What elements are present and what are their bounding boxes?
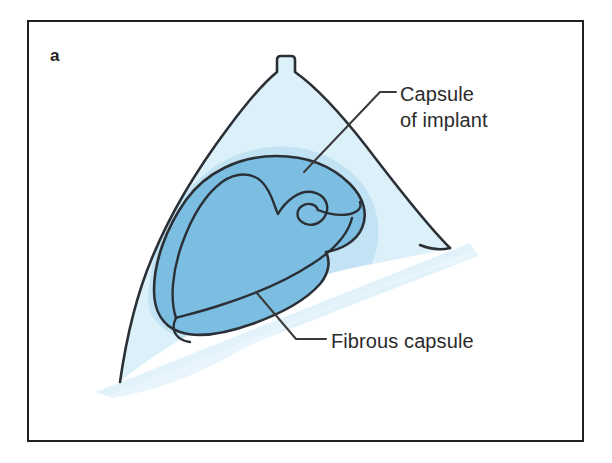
callout-label-capsule-of-implant: Capsule of implant xyxy=(400,82,488,133)
illustration-canvas xyxy=(0,0,612,463)
panel-letter: a xyxy=(50,47,60,64)
figure-root: a Capsule of implant Fibrous capsule xyxy=(0,0,612,463)
callout-label-fibrous-capsule: Fibrous capsule xyxy=(331,329,474,355)
